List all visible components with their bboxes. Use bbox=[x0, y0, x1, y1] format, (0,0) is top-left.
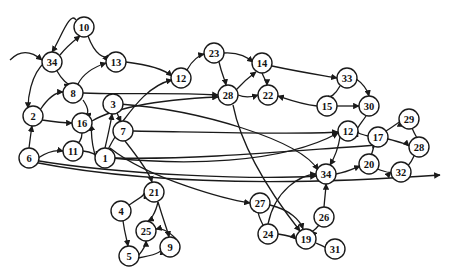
node-label: 20 bbox=[364, 159, 375, 170]
graph-edge bbox=[108, 137, 115, 149]
node-label: 30 bbox=[364, 101, 375, 112]
node-label: 12 bbox=[176, 73, 187, 84]
graph-node-11: 11 bbox=[63, 141, 83, 161]
graph-edge bbox=[224, 53, 253, 62]
graph-node-17: 17 bbox=[368, 127, 388, 147]
graph-edge bbox=[133, 131, 338, 133]
node-label: 25 bbox=[141, 226, 152, 237]
graph-node-33: 33 bbox=[337, 68, 357, 88]
node-label: 14 bbox=[257, 58, 268, 69]
graph-edge bbox=[40, 92, 63, 110]
graph-edge bbox=[278, 234, 296, 239]
node-label: 21 bbox=[149, 187, 160, 198]
graph-edge bbox=[316, 243, 325, 248]
node-label: 7 bbox=[120, 126, 125, 137]
graph-node-1: 1 bbox=[95, 148, 115, 168]
graph-edge bbox=[10, 53, 42, 61]
graph-edge bbox=[120, 104, 318, 170]
graph-node-12: 12 bbox=[338, 121, 358, 141]
graph-node-23: 23 bbox=[204, 43, 224, 63]
node-label: 22 bbox=[263, 90, 274, 101]
node-label: 2 bbox=[30, 111, 35, 122]
graph-edge bbox=[219, 62, 226, 85]
graph-edge bbox=[138, 249, 161, 258]
graph-node-7: 7 bbox=[113, 121, 133, 141]
graph-edge bbox=[29, 126, 32, 148]
graph-edge bbox=[38, 151, 63, 158]
node-label: 33 bbox=[342, 73, 353, 84]
graph-edge bbox=[83, 100, 88, 114]
graph-edge bbox=[28, 62, 45, 108]
graph-edge bbox=[88, 36, 108, 57]
graph-node-12: 12 bbox=[171, 68, 191, 88]
graph-edge bbox=[388, 139, 409, 146]
graph-edge bbox=[412, 128, 417, 137]
graph-node-28: 28 bbox=[409, 137, 429, 157]
node-label: 5 bbox=[126, 251, 131, 262]
graph-edge bbox=[258, 213, 263, 225]
graph-edge bbox=[126, 62, 172, 76]
node-label: 6 bbox=[26, 153, 31, 164]
node-layer: 1034138216371116122328142233153012172928… bbox=[19, 17, 429, 266]
graph-edge bbox=[330, 137, 340, 165]
graph-node-32: 32 bbox=[391, 162, 411, 182]
graph-node-31: 31 bbox=[325, 239, 345, 259]
node-label: 28 bbox=[223, 90, 234, 101]
graph-edge bbox=[270, 205, 303, 229]
node-label: 24 bbox=[263, 229, 274, 240]
graph-edge bbox=[336, 166, 360, 174]
graph-node-34: 34 bbox=[316, 164, 336, 184]
node-label: 17 bbox=[373, 132, 384, 143]
graph-node-24: 24 bbox=[258, 224, 278, 244]
graph-node-3: 3 bbox=[103, 94, 123, 114]
graph-edge bbox=[278, 96, 317, 106]
graph-edge bbox=[52, 18, 76, 52]
node-label: 8 bbox=[70, 88, 75, 99]
graph-edge bbox=[236, 72, 256, 90]
graph-node-21: 21 bbox=[144, 182, 164, 202]
graph-edge bbox=[129, 193, 144, 205]
node-label: 34 bbox=[47, 57, 58, 68]
graph-node-6: 6 bbox=[19, 148, 39, 168]
directed-graph-canvas: 1034138216371116122328142233153012172928… bbox=[0, 0, 449, 280]
graph-edge bbox=[148, 202, 158, 221]
node-label: 13 bbox=[111, 57, 122, 68]
graph-node-4: 4 bbox=[111, 201, 131, 221]
graph-edge bbox=[238, 95, 258, 97]
graph-edge bbox=[328, 86, 340, 97]
graph-node-30: 30 bbox=[359, 96, 379, 116]
node-label: 32 bbox=[396, 167, 407, 178]
node-label: 34 bbox=[321, 169, 332, 180]
graph-node-16: 16 bbox=[72, 113, 92, 133]
graph-edge bbox=[262, 73, 267, 85]
node-label: 10 bbox=[79, 22, 90, 33]
graph-edge bbox=[386, 121, 400, 131]
graph-edge bbox=[324, 184, 326, 207]
graph-node-27: 27 bbox=[250, 193, 270, 213]
graph-node-5: 5 bbox=[119, 246, 139, 266]
node-label: 12 bbox=[343, 126, 354, 137]
node-label: 23 bbox=[209, 48, 220, 59]
graph-node-34: 34 bbox=[42, 52, 62, 72]
graph-edge bbox=[78, 63, 106, 84]
graph-edge bbox=[187, 54, 204, 70]
node-label: 1 bbox=[102, 153, 107, 164]
graph-edge bbox=[358, 131, 368, 136]
graph-edge bbox=[233, 105, 300, 231]
node-label: 28 bbox=[414, 142, 425, 153]
node-label: 31 bbox=[330, 244, 341, 255]
graph-node-14: 14 bbox=[252, 53, 272, 73]
graph-edge bbox=[60, 36, 80, 55]
graph-edge bbox=[123, 221, 128, 246]
node-label: 19 bbox=[301, 234, 312, 245]
node-label: 3 bbox=[110, 99, 115, 110]
graph-node-22: 22 bbox=[258, 85, 278, 105]
graph-node-2: 2 bbox=[23, 106, 43, 126]
graph-node-28: 28 bbox=[218, 85, 238, 105]
graph-node-25: 25 bbox=[136, 221, 156, 241]
node-label: 11 bbox=[68, 146, 78, 157]
graph-edge bbox=[83, 93, 218, 95]
graph-node-26: 26 bbox=[314, 207, 334, 227]
node-label: 27 bbox=[255, 198, 266, 209]
graph-node-9: 9 bbox=[160, 237, 180, 257]
